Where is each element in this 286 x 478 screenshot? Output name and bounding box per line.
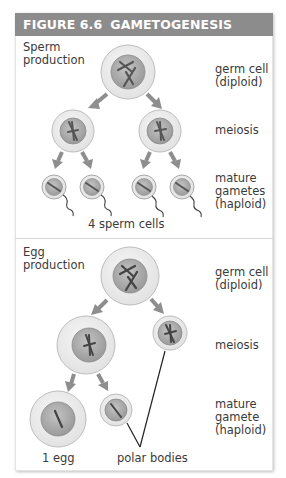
sperm-cell-4: [170, 175, 201, 217]
egg-meiosis-cell: [57, 316, 115, 374]
sperm-cell-1: [42, 175, 73, 216]
sperm-germ-cell: [101, 45, 155, 99]
polar-bodies-caption: polar bodies: [117, 452, 188, 465]
arrow-icon: [82, 152, 93, 169]
egg-section-label: Egg production: [23, 246, 85, 272]
polar-body-2: [100, 394, 132, 426]
egg-cell: [30, 391, 86, 447]
arrow-icon: [52, 152, 63, 169]
arrow-icon: [170, 152, 181, 169]
arrow-icon: [98, 374, 108, 391]
arrow-icon: [147, 94, 162, 109]
egg-label-line2: production: [23, 259, 85, 272]
label-line: (haploid): [215, 198, 266, 211]
sperm-meiosis-cell-1: [52, 110, 94, 152]
sperm-section-label: Sperm production: [23, 41, 85, 67]
sperm-germ-cell-label: germ cell (diploid): [215, 63, 269, 89]
arrow-icon: [151, 299, 164, 314]
arrow-icon: [65, 374, 76, 392]
egg-meiosis-label: meiosis: [215, 339, 259, 352]
sperm-caption: 4 sperm cells: [88, 218, 165, 231]
egg-mature-label: mature gamete (haploid): [215, 398, 266, 437]
sperm-cell-2: [80, 175, 111, 216]
label-line: (diploid): [215, 279, 269, 292]
egg-germ-cell-label: germ cell (diploid): [215, 266, 269, 292]
label-line: (haploid): [215, 424, 266, 437]
arrow-icon: [88, 94, 107, 109]
sperm-meiosis-label: meiosis: [215, 124, 259, 137]
sperm-label-line2: production: [23, 54, 85, 67]
sperm-meiosis-cell-2: [139, 110, 181, 152]
arrow-icon: [91, 300, 107, 315]
egg-germ-cell: [101, 247, 159, 305]
egg-caption: 1 egg: [42, 452, 75, 465]
polar-bodies-pointer: [127, 351, 165, 447]
arrow-icon: [140, 152, 151, 169]
sperm-mature-label: mature gametes (haploid): [215, 172, 266, 211]
polar-body-1: [153, 316, 187, 350]
sperm-cell-3: [132, 175, 163, 217]
label-line: (diploid): [215, 76, 269, 89]
